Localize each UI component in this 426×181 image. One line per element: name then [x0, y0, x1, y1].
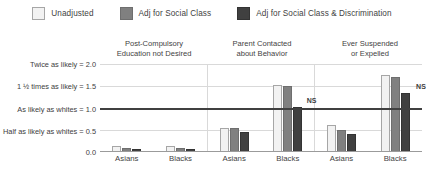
panel-titles: Post-Compulsory Education not Desired Pa… [100, 39, 424, 61]
panel-title-line2: about Behavior [208, 49, 316, 59]
bar-adj-social-class [391, 77, 400, 152]
bar-adj-social-class-discrimination [240, 132, 249, 152]
panel-title-line1: Post-Compulsory [100, 39, 208, 49]
bar-adj-social-class [337, 130, 346, 152]
annotation-ns: NS [416, 83, 426, 90]
x-axis-panel-2: Asians Blacks [207, 154, 314, 170]
panel-title-line2: Education not Desired [100, 49, 208, 59]
panel-title-line1: Parent Contacted [208, 39, 316, 49]
axis-baseline [100, 151, 422, 152]
panel-title-ever-suspended: Ever Suspended or Expelled [316, 39, 424, 61]
y-tick-2-0: Twice as likely = 2.0 [30, 60, 96, 69]
x-label-asians: Asians [209, 154, 258, 163]
x-axis-panel-1: Asians Blacks [100, 154, 207, 170]
x-axis-panel-3: Asians Blacks [315, 154, 422, 170]
bar-unadjusted [220, 128, 229, 152]
bar-adj-social-class-discrimination [347, 134, 356, 153]
legend-swatch-icon [32, 7, 45, 20]
bar-adj-social-class-discrimination [401, 93, 410, 152]
bar-adj-social-class [230, 128, 239, 152]
bar-unadjusted [327, 125, 336, 152]
y-tick-1-5: 1 ½ times as likely = 1.5 [17, 82, 96, 91]
panel-title-post-compulsory: Post-Compulsory Education not Desired [100, 39, 208, 61]
x-label-blacks: Blacks [370, 154, 419, 163]
x-label-asians: Asians [102, 154, 151, 163]
x-label-asians: Asians [317, 154, 366, 163]
x-label-blacks: Blacks [263, 154, 312, 163]
legend-item-unadjusted: Unadjusted [32, 7, 93, 20]
bar-adj-social-class [283, 86, 292, 152]
plot-area: NS NS [100, 64, 422, 152]
legend-label: Adj for Social Class [139, 9, 212, 18]
annotation-ns: NS [307, 97, 317, 104]
panel-title-line1: Ever Suspended [316, 39, 424, 49]
y-axis-labels: Twice as likely = 2.0 1 ½ times as likel… [0, 58, 100, 154]
legend-swatch-icon [120, 7, 133, 20]
chart-legend: Unadjusted Adj for Social Class Adj for … [0, 4, 424, 22]
x-axis-labels: Asians Blacks Asians Blacks Asians Black… [100, 154, 422, 170]
panel-title-parent-contacted: Parent Contacted about Behavior [208, 39, 316, 61]
y-tick-1-0: As likely as whites = 1.0 [17, 105, 96, 114]
bar-unadjusted [273, 85, 282, 152]
legend-label: Adj for Social Class & Discrimination [256, 9, 391, 18]
reference-line-1-0 [100, 108, 422, 110]
y-tick-0-0: 0.0 [86, 148, 96, 157]
legend-swatch-icon [237, 7, 250, 20]
legend-item-adj-social-class: Adj for Social Class [120, 7, 212, 20]
panel-title-line2: or Expelled [316, 49, 424, 59]
legend-label: Unadjusted [51, 9, 93, 18]
legend-item-adj-social-class-discrimination: Adj for Social Class & Discrimination [237, 7, 391, 20]
bar-adj-social-class-discrimination [293, 107, 302, 152]
y-tick-0-5: Half as likely as whites = 0.5 [3, 127, 96, 136]
bar-unadjusted [381, 75, 390, 152]
x-label-blacks: Blacks [156, 154, 205, 163]
